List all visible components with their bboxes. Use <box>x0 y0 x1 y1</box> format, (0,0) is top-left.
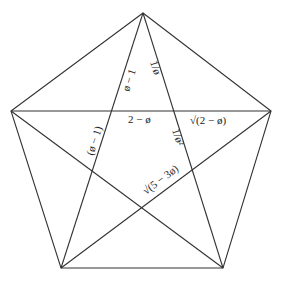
label-sqrt-five-minus-three-phi: √(5 − 3ø) <box>140 162 181 198</box>
label-two-minus-phi: 2 − ø <box>128 113 151 125</box>
label-phi-minus-1: ø − 1 <box>119 67 137 92</box>
label-sqrt-two-minus-phi: √(2 − ø) <box>190 114 226 127</box>
diagram-canvas: ø − 1 1/ø 2 − ø √(2 − ø) 1/ø² (ø − 1) √(… <box>0 0 283 287</box>
diagonal-top-bottomleft <box>61 13 143 268</box>
pentagon-diagram: ø − 1 1/ø 2 − ø √(2 − ø) 1/ø² (ø − 1) √(… <box>0 0 283 287</box>
diagonal-left-bottomright <box>11 111 223 268</box>
